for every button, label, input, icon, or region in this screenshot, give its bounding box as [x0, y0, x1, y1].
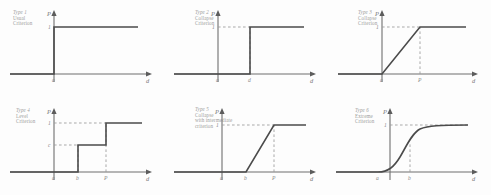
panel-2-y-axis-arrow [215, 10, 220, 16]
panel-4-x-axis-arrow [146, 169, 152, 174]
panel-6-x-axis-arrow [472, 169, 478, 174]
chart-panel-type-4: Type 4 Level Criterion P d a b P c 1 [0, 97, 164, 195]
panel-3-x-tick-P: P [417, 77, 422, 83]
chart-panel-type-2: Type 2 Collapse Criterion P d a d 1 [164, 0, 328, 97]
panel-6-y-axis-arrow [387, 108, 392, 114]
panel-5-x-axis-arrow [310, 169, 316, 174]
panel-2-x-axis-label: d [310, 77, 314, 84]
panel-3-x-tick-a: a [380, 77, 383, 83]
panel-2-x-tick-d: d [248, 77, 251, 83]
panel-6-plot: P d a b 1 [328, 97, 491, 195]
chart-panel-type-1: Type 1 Usual Criterion P d a 1 [0, 0, 164, 97]
panel-4-x-tick-a: a [52, 175, 55, 181]
panel-1-y-axis-arrow [51, 10, 56, 16]
panel-5-x-tick-b: b [244, 175, 247, 181]
panel-3-data-curve [338, 27, 466, 74]
panel-4-x-axis-label: d [146, 175, 150, 182]
panel-4-x-tick-b: b [76, 175, 79, 181]
panel-4-x-tick-P: P [103, 175, 108, 181]
panel-3-y-tick-1: 1 [376, 24, 379, 30]
panel-1-y-axis-label: P [46, 10, 51, 17]
panel-5-plot: P d a b P 1 [164, 97, 328, 195]
panel-6-x-tick-a: a [376, 175, 379, 181]
panel-3-plot: P d a P 1 [328, 0, 491, 97]
panel-5-data-curve [174, 125, 306, 172]
panel-2-y-axis-label: P [210, 10, 215, 17]
panel-1-x-axis-arrow [146, 71, 152, 76]
panel-5-x-tick-P: P [271, 175, 276, 181]
panel-4-y-tick-c: c [48, 142, 51, 148]
panel-4-y-axis-label: P [46, 108, 51, 115]
chart-panel-type-6: Type 6 Extreme Criterion P d a b 1 [328, 97, 491, 195]
panel-4-y-axis-arrow [51, 108, 56, 114]
criterion-functions-figure: Type 1 Usual Criterion P d a 1 Type 2 Co… [0, 0, 491, 195]
panel-2-x-axis-arrow [310, 71, 316, 76]
panel-4-plot: P d a b P c 1 [0, 97, 164, 195]
panel-5-y-tick-1: 1 [216, 122, 219, 128]
panel-6-data-curve [336, 125, 468, 172]
panel-1-y-tick-1: 1 [48, 24, 51, 30]
panel-6-y-tick-1: 1 [384, 122, 387, 128]
panel-6-x-axis-label: d [472, 175, 476, 182]
panel-4-y-tick-1: 1 [48, 120, 51, 126]
panel-6-x-tick-b: b [408, 175, 411, 181]
panel-5-y-axis-arrow [219, 108, 224, 114]
panel-2-x-tick-a: a [216, 77, 219, 83]
panel-5-y-axis-label: P [214, 108, 219, 115]
panel-2-plot: P d a d 1 [164, 0, 328, 97]
chart-panel-type-5: Type 5 Collapse with intermediate criter… [164, 97, 328, 195]
panel-1-x-axis-label: d [146, 77, 150, 84]
panel-3-y-axis-arrow [379, 10, 384, 16]
panel-4-data-curve [10, 123, 142, 172]
panel-3-x-axis-label: d [472, 77, 476, 84]
panel-6-y-axis-label: P [382, 108, 387, 115]
panel-2-data-curve [174, 27, 304, 74]
panel-2-y-tick-1: 1 [212, 24, 215, 30]
panel-3-x-axis-arrow [472, 71, 478, 76]
panel-1-plot: P d a 1 [0, 0, 164, 97]
panel-5-x-tick-a: a [220, 175, 223, 181]
panel-3-y-axis-label: P [374, 10, 379, 17]
panel-1-data-curve [10, 27, 138, 74]
chart-panel-type-3: Type 3 Collapse Criterion P d a P 1 [328, 0, 491, 97]
panel-1-x-tick-a: a [52, 77, 55, 83]
panel-5-x-axis-label: d [310, 175, 314, 182]
